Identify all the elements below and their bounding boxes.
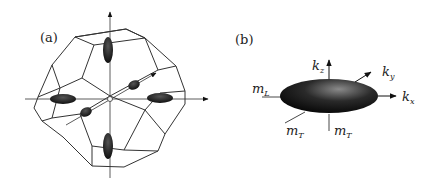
ellipsoid-b [280, 79, 378, 113]
ellipsoid-left [50, 94, 76, 104]
mL-label: mL [252, 81, 270, 98]
origin-marker [108, 97, 113, 102]
ellipsoid-bottom [103, 133, 113, 159]
panel-b: (b) kz ky kx mL mT mT [235, 32, 415, 140]
mT1-label: mT [286, 123, 304, 140]
diagram-canvas: (a) [0, 0, 435, 184]
panel-a-label: (a) [40, 30, 58, 45]
ellipsoid-right [147, 93, 173, 103]
ky-label: ky [382, 64, 395, 81]
panel-b-label: (b) [235, 32, 253, 47]
kz-label: kz [312, 58, 325, 75]
kx-label: kx [402, 89, 415, 106]
mT1-line [285, 112, 305, 123]
panel-a: (a) [25, 12, 208, 178]
mT2-label: mT [334, 123, 352, 140]
ellipsoid-top [103, 37, 113, 63]
